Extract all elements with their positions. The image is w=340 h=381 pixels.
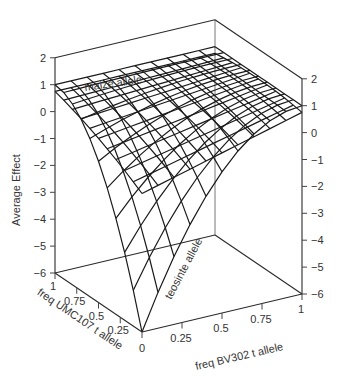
z-tick-label-left: 2 xyxy=(40,52,46,64)
upper-surface-u-line xyxy=(142,112,302,193)
z-tick-label-right: −3 xyxy=(311,207,324,219)
z-tick-label-right: −5 xyxy=(311,261,324,273)
y-tick-label: 0.25 xyxy=(170,332,191,344)
y-tick-label: 0.75 xyxy=(250,313,271,325)
z-tick-label-left: −2 xyxy=(33,159,46,171)
y-tick-label: 1 xyxy=(298,303,304,315)
z-tick-label-right: −1 xyxy=(311,154,324,166)
x-tick-label: 1 xyxy=(50,280,56,292)
main-surface-v-line xyxy=(71,81,158,293)
z-tick-label-right: 0 xyxy=(311,127,317,139)
y-tick-label: 0.5 xyxy=(213,322,228,334)
plot-box-back xyxy=(55,20,302,294)
upper-surface-v-line xyxy=(183,61,270,129)
z-tick-label-right: −2 xyxy=(311,180,324,192)
z-tick-label-left: −3 xyxy=(33,186,46,198)
z-tick-label-left: −6 xyxy=(33,267,46,279)
z-tick-label-left: −4 xyxy=(33,213,46,225)
z-tick-label-left: −5 xyxy=(33,240,46,252)
z-tick-label-right: −4 xyxy=(311,234,324,246)
z-tick-label-left: −1 xyxy=(33,133,46,145)
surface-plot: 221100−1−1−2−2−3−3−4−4−5−5−6−610.750.50.… xyxy=(0,0,340,381)
upper-surface-v-line xyxy=(55,91,142,193)
base-edge-back-right xyxy=(215,235,302,294)
z-tick-label-left: 1 xyxy=(40,79,46,91)
y-axis-label: freq BV302 t allele xyxy=(194,340,284,372)
x-tick-label: 0 xyxy=(139,342,145,354)
z-tick-label-right: −6 xyxy=(311,288,324,300)
z-tick-label-left: 0 xyxy=(40,106,46,118)
z-axis-label: Average Effect xyxy=(10,154,22,226)
z-tick-label-right: 2 xyxy=(311,73,317,85)
z-tick-label-right: 1 xyxy=(311,100,317,112)
